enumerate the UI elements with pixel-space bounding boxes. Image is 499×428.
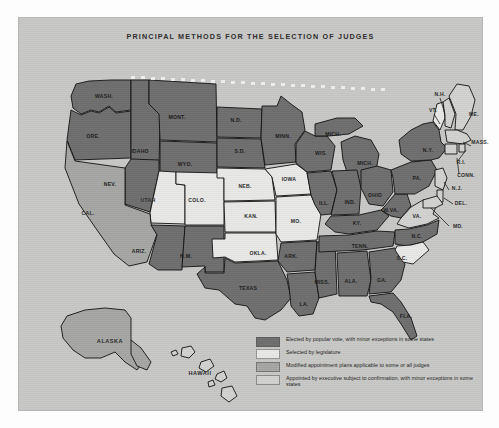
state-label-cal: CAL. — [82, 210, 95, 216]
state-label-nh: N.H. — [434, 91, 445, 97]
state-label-ill: ILL. — [319, 200, 329, 206]
state-label-nd: N.D. — [230, 117, 241, 123]
state-label-nc: N.C. — [411, 233, 422, 239]
state-label-alaska: ALASKA — [97, 338, 123, 344]
state-label-nm: N.M. — [180, 253, 192, 259]
state-label-ga: GA. — [377, 277, 387, 283]
state-label-ny: N.Y. — [423, 147, 433, 153]
state-shape-nj — [435, 168, 447, 190]
legend-item-modified: Modified appointment plans applicable to… — [256, 362, 478, 373]
state-label-md: MD. — [453, 223, 463, 229]
state-label-me: ME. — [469, 111, 479, 117]
legend-label-modified: Modified appointment plans applicable to… — [286, 362, 429, 369]
state-shape-al — [337, 251, 371, 296]
state-label-ky: KY. — [353, 220, 362, 226]
state-label-ark: ARK. — [284, 253, 297, 259]
state-label-minn: MINN. — [275, 133, 291, 139]
state-label-conn: CONN. — [457, 172, 475, 178]
legend-label-legislature: Selected by legislature — [286, 349, 340, 356]
state-label-hawaii: HAWAII — [189, 370, 212, 376]
state-label-mo: MO. — [291, 218, 301, 224]
state-label-mass: MASS. — [471, 139, 488, 145]
map-panel: PRINCIPAL METHODS FOR THE SELECTION OF J… — [18, 17, 483, 411]
state-label-neb: NEB. — [238, 183, 251, 189]
state-label-idaho: IDAHO — [131, 148, 149, 154]
state-label-wva: W.VA. — [383, 207, 398, 213]
state-label-sc: S.C. — [397, 255, 408, 261]
state-label-ore: ORE. — [86, 133, 99, 139]
state-label-va: VA. — [413, 213, 422, 219]
state-label-iowa: IOWA — [282, 176, 297, 182]
state-label-mich: MICH. — [357, 160, 373, 166]
state-label-mich: MICH. — [325, 131, 341, 137]
state-shape-ri — [459, 144, 465, 152]
legend-item-legislature: Selected by legislature — [256, 349, 478, 360]
state-label-ri: R.I. — [457, 159, 466, 165]
state-label-colo: COLO. — [188, 197, 205, 203]
state-label-vt: VT. — [429, 107, 437, 113]
state-shape-oh — [361, 166, 393, 206]
state-label-del: DEL. — [455, 200, 468, 206]
state-label-kan: KAN. — [244, 213, 257, 219]
state-label-ala: ALA. — [345, 278, 358, 284]
state-label-utah: UTAH — [141, 197, 156, 203]
state-label-sd: S.D. — [235, 148, 246, 154]
state-label-okla: OKLA. — [249, 250, 266, 256]
state-label-miss: MISS. — [314, 279, 329, 285]
map-page: PRINCIPAL METHODS FOR THE SELECTION OF J… — [0, 0, 499, 428]
state-label-mont: MONT. — [168, 114, 185, 120]
legend-item-executive: Appointed by executive subject to confir… — [256, 375, 478, 388]
state-label-ariz: ARIZ. — [132, 248, 147, 254]
state-shape-me — [449, 84, 475, 130]
legend-item-elected: Elected by popular vote, with minor exce… — [256, 336, 478, 347]
state-label-la: LA. — [300, 301, 309, 307]
state-shape-ma — [445, 130, 471, 144]
state-shape-ct — [445, 144, 457, 154]
state-label-texas: TEXAS — [239, 285, 257, 291]
state-label-wash: WASH. — [95, 93, 113, 99]
legend-swatch-legislature — [256, 349, 280, 359]
state-label-wis: WIS. — [315, 150, 327, 156]
legend-swatch-elected — [256, 337, 280, 347]
legend-swatch-modified — [256, 362, 280, 372]
state-label-pa: PA. — [413, 175, 422, 181]
state-label-ohio: OHIO — [368, 192, 382, 198]
state-label-tenn: TENN. — [352, 243, 369, 249]
legend-swatch-executive — [256, 375, 280, 385]
state-label-wyo: WYO. — [178, 161, 193, 167]
map-legend: Elected by popular vote, with minor exce… — [256, 336, 478, 390]
state-label-ind: IND. — [344, 199, 355, 205]
legend-label-executive: Appointed by executive subject to confir… — [286, 375, 478, 388]
state-label-nj: N.J. — [452, 185, 462, 191]
state-label-nev: NEV. — [104, 181, 116, 187]
state-label-fla: FLA. — [400, 313, 412, 319]
legend-label-elected: Elected by popular vote, with minor exce… — [286, 336, 434, 343]
